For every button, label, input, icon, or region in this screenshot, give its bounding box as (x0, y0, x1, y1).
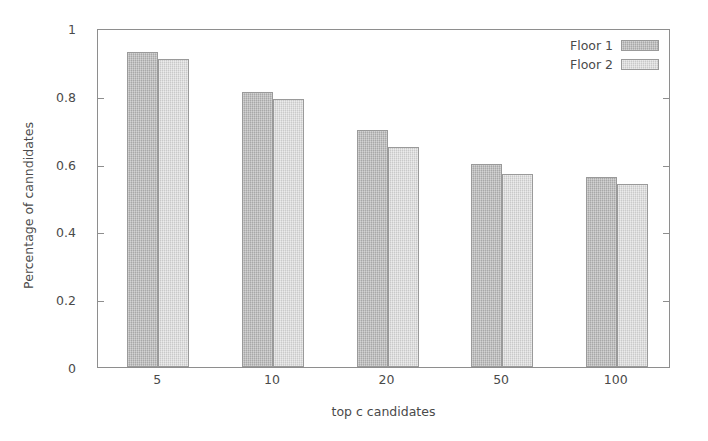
plot-area: Floor 1Floor 2 (97, 29, 670, 368)
y-tick-label: 1 (68, 22, 76, 37)
y-axis-title: Percentage of canndidates (21, 116, 36, 296)
bar-floor-1-100 (586, 177, 617, 367)
y-tick-label: 0.6 (56, 157, 76, 172)
y-tick-mark-right (663, 166, 669, 167)
legend-item-floor-1: Floor 1 (570, 38, 659, 53)
y-tick-mark-left (98, 166, 104, 167)
legend-label: Floor 2 (570, 57, 613, 72)
y-tick-mark-left (98, 98, 104, 99)
bar-floor-2-100 (617, 184, 648, 367)
chart-legend: Floor 1Floor 2 (566, 36, 663, 74)
y-tick-mark-right (663, 98, 669, 99)
bar-floor-1-5 (127, 52, 158, 367)
y-tick-label: 0 (68, 361, 76, 376)
y-tick-label: 0.2 (56, 293, 76, 308)
y-tick-label: 0.8 (56, 89, 76, 104)
x-axis-tick-labels: 5102050100 (97, 372, 670, 394)
bar-floor-1-50 (471, 164, 502, 367)
y-tick-mark-left (98, 233, 104, 234)
x-tick-label: 10 (264, 372, 280, 387)
bar-floor-2-20 (388, 147, 419, 367)
y-axis-tick-labels: 00.20.40.60.81 (0, 0, 92, 441)
bar-floor-1-10 (242, 92, 273, 367)
x-tick-label: 100 (604, 372, 628, 387)
y-tick-mark-right (663, 301, 669, 302)
y-tick-mark-right (663, 233, 669, 234)
legend-swatch (621, 40, 659, 51)
bar-floor-2-5 (158, 59, 189, 367)
bar-floor-1-20 (357, 130, 388, 367)
bar-floor-2-10 (273, 99, 304, 367)
x-tick-label: 20 (379, 372, 395, 387)
legend-item-floor-2: Floor 2 (570, 57, 659, 72)
x-tick-label: 5 (153, 372, 161, 387)
x-axis-title: top c candidates (97, 404, 670, 419)
chart-figure: 00.20.40.60.81 Percentage of canndidates… (0, 0, 708, 441)
legend-label: Floor 1 (570, 38, 613, 53)
y-tick-mark-left (98, 301, 104, 302)
legend-swatch (621, 59, 659, 70)
bar-floor-2-50 (502, 174, 533, 367)
x-tick-label: 50 (493, 372, 509, 387)
y-tick-label: 0.4 (56, 225, 76, 240)
